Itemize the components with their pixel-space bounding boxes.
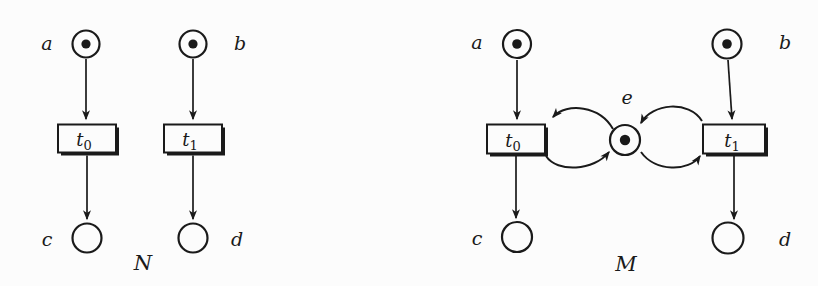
- net-m-arc-e-t0: [553, 108, 613, 129]
- net-n-place-c: [73, 224, 102, 253]
- net-m-arc-e-t1: [641, 152, 700, 168]
- net-m-arc-t1-e: [641, 107, 702, 123]
- net-m-place-b-token: [722, 39, 732, 49]
- net-m-place-c-label: c: [472, 227, 483, 249]
- net-m-name: M: [614, 252, 637, 276]
- net-m-arc-b-t1: [728, 60, 732, 119]
- net-n: a b t0 t1 c d: [41, 31, 246, 276]
- net-m-place-d: [713, 223, 744, 254]
- petri-nets-figure: a b t0 t1 c d: [0, 0, 818, 286]
- net-m-place-d-label: d: [779, 228, 791, 250]
- net-m: a b t0 t1 e: [471, 30, 791, 277]
- net-n-place-d: [179, 224, 208, 253]
- net-m-place-c: [502, 222, 532, 252]
- net-n-place-a-token: [81, 39, 90, 48]
- net-n-place-b-label: b: [234, 32, 246, 54]
- net-m-place-a-label: a: [471, 31, 482, 53]
- net-m-arc-t0-e: [546, 152, 609, 168]
- petri-nets-canvas: a b t0 t1 c d: [0, 0, 818, 286]
- net-m-place-b-label: b: [779, 31, 791, 53]
- net-n-place-d-label: d: [231, 228, 243, 250]
- net-m-place-e-token: [620, 135, 630, 145]
- net-n-place-c-label: c: [42, 228, 53, 250]
- net-n-place-a-label: a: [41, 32, 52, 54]
- net-m-place-a-token: [512, 39, 522, 49]
- net-m-place-e-label: e: [621, 86, 632, 108]
- net-n-place-b-token: [188, 39, 197, 48]
- net-n-name: N: [133, 251, 153, 275]
